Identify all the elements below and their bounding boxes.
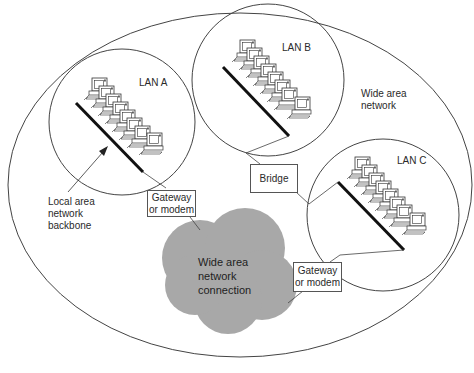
bridge-label: Bridge — [260, 173, 289, 184]
network-diagram — [0, 0, 474, 373]
lan-b-to-bridge-line — [246, 136, 289, 164]
gateway-c-line-2: or modem — [294, 277, 341, 289]
backbone-label-line-2: network — [48, 208, 95, 220]
lan-a-to-gateway-line — [143, 172, 166, 188]
cloud-label: Wide area network connection — [198, 255, 251, 297]
bridge-box: Bridge — [250, 164, 298, 193]
bridge-to-lan-c-line — [296, 182, 338, 204]
backbone-label-line-3: backbone — [48, 220, 95, 232]
gateway-a-line-1: Gateway — [148, 192, 195, 204]
gateway-c-box: Gateway or modem — [293, 262, 342, 292]
lan-b-label: LAN B — [282, 42, 311, 54]
cloud-label-line-1: Wide area — [198, 255, 251, 269]
backbone-arrow-line — [68, 152, 103, 192]
backbone-callout-label: Local area network backbone — [48, 196, 95, 232]
gateway-a-line-2: or modem — [148, 204, 195, 216]
gateway-c-line-1: Gateway — [294, 265, 341, 277]
cloud-label-line-3: connection — [198, 283, 251, 297]
cloud-label-line-2: network — [198, 269, 251, 283]
lan-c-label: LAN C — [397, 155, 426, 167]
lan-a-computers — [84, 78, 163, 155]
lan-c-to-gateway-line — [330, 250, 404, 262]
wan-label: Wide area network — [361, 88, 407, 112]
lan-a-label: LAN A — [139, 77, 167, 89]
wan-label-line-2: network — [361, 100, 407, 112]
wan-label-line-1: Wide area — [361, 88, 407, 100]
gateway-a-box: Gateway or modem — [147, 190, 196, 217]
lan-c-computers — [347, 157, 426, 235]
backbone-label-line-1: Local area — [48, 196, 95, 208]
